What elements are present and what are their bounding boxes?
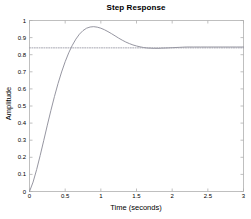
x-tick-label: 2.5 <box>204 193 212 199</box>
x-tick-label: 0 <box>28 193 31 199</box>
figure-canvas: Step Response 00.10.20.30.40.50.60.70.80… <box>0 0 251 219</box>
x-tick-label: 0.5 <box>61 193 69 199</box>
x-tick-label: 1.5 <box>132 193 140 199</box>
x-tick-label: 1 <box>99 193 102 199</box>
y-axis-title: Amplitude <box>4 74 13 134</box>
x-axis-title: Time (seconds) <box>29 203 243 212</box>
x-axis-tick-labels: 00.511.522.53 <box>0 0 251 219</box>
x-tick-label: 3 <box>242 193 245 199</box>
x-tick-label: 2 <box>170 193 173 199</box>
